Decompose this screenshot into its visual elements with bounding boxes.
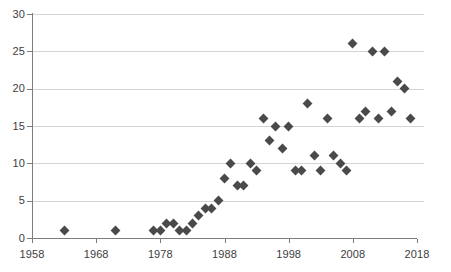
data-point (220, 173, 230, 183)
data-point (239, 181, 249, 191)
data-point (341, 166, 351, 176)
data-point (194, 211, 204, 221)
gridline-y-5 (32, 201, 424, 202)
data-point (187, 218, 197, 228)
data-point (361, 106, 371, 116)
data-point (399, 84, 409, 94)
data-point (155, 226, 165, 236)
data-point (252, 166, 262, 176)
data-point (406, 114, 416, 124)
x-tick-label-1958: 1958 (12, 249, 52, 260)
y-tick-mark-15 (27, 126, 32, 127)
data-point (329, 151, 339, 161)
x-tick-mark-2008 (353, 239, 354, 243)
data-point (271, 121, 281, 131)
data-point (181, 226, 191, 236)
data-point (316, 166, 326, 176)
data-point (264, 136, 274, 146)
y-tick-mark-20 (27, 89, 32, 90)
x-tick-label-1968: 1968 (76, 249, 116, 260)
data-point (258, 114, 268, 124)
data-point (386, 106, 396, 116)
data-point (393, 76, 403, 86)
data-point (284, 121, 294, 131)
gridline-y-30 (32, 14, 424, 15)
data-point (367, 46, 377, 56)
y-tick-label-5: 5 (3, 195, 25, 206)
x-tick-label-2018: 2018 (397, 249, 437, 260)
y-tick-mark-30 (27, 14, 32, 15)
x-tick-mark-2018 (417, 239, 418, 243)
data-point (303, 99, 313, 109)
data-point (110, 226, 120, 236)
y-tick-label-20: 20 (3, 83, 25, 94)
y-tick-mark-5 (27, 201, 32, 202)
y-tick-label-0: 0 (3, 233, 25, 244)
y-tick-label-30: 30 (3, 9, 25, 20)
data-point (374, 114, 384, 124)
y-tick-mark-10 (27, 163, 32, 164)
y-axis-tick-labels: 051015202530 (0, 0, 25, 272)
x-tick-label-1998: 1998 (269, 249, 309, 260)
scatter-chart: 051015202530 195819681978198819982008201… (0, 0, 451, 272)
y-tick-label-25: 25 (3, 46, 25, 57)
gridline-y-15 (32, 126, 424, 127)
data-point (59, 226, 69, 236)
x-tick-mark-1988 (225, 239, 226, 243)
data-point (277, 143, 287, 153)
x-tick-mark-1968 (96, 239, 97, 243)
y-axis-line (32, 13, 33, 239)
data-point (348, 39, 358, 49)
data-point (207, 203, 217, 213)
x-tick-mark-1978 (160, 239, 161, 243)
data-point (380, 46, 390, 56)
y-tick-mark-25 (27, 51, 32, 52)
plot-area (32, 14, 424, 238)
data-point (354, 114, 364, 124)
x-tick-mark-1958 (32, 239, 33, 243)
x-tick-label-1978: 1978 (140, 249, 180, 260)
x-tick-label-2008: 2008 (333, 249, 373, 260)
data-point (297, 166, 307, 176)
data-point (213, 196, 223, 206)
gridline-y-25 (32, 51, 424, 52)
data-point (322, 114, 332, 124)
y-tick-label-15: 15 (3, 121, 25, 132)
gridline-y-20 (32, 89, 424, 90)
x-tick-mark-1998 (289, 239, 290, 243)
x-tick-label-1988: 1988 (205, 249, 245, 260)
data-point (309, 151, 319, 161)
y-tick-label-10: 10 (3, 158, 25, 169)
data-point (226, 158, 236, 168)
